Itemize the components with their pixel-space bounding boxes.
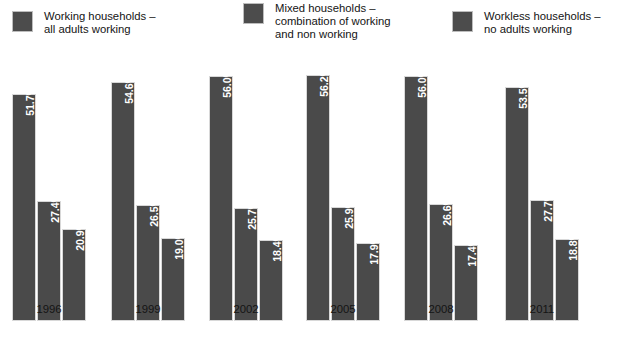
- bar-working: 51.7%: [12, 94, 36, 321]
- bar-working: 56.0%: [404, 76, 428, 321]
- bar-value-label: 56.2%: [318, 67, 330, 97]
- bar-value-label: 17.4%: [466, 237, 478, 267]
- bar-value-label: 18.8%: [567, 231, 579, 261]
- legend-item-working-households: Working households – all adults working: [12, 10, 156, 36]
- bar-value-label: 51.7%: [24, 87, 36, 117]
- bar-value-label: 56.0%: [221, 68, 233, 98]
- x-axis-tick-label: 2005: [306, 303, 380, 315]
- x-axis-tick-label: 1996: [12, 303, 86, 315]
- bar-value-label: 20.9%: [74, 222, 86, 252]
- legend-swatch-icon: [12, 11, 33, 32]
- bar-chart-plot-area: 51.7% 27.4% 20.9% 1996 54.6% 26.5% 19.0%…: [0, 58, 630, 355]
- bar-value-label: 56.0%: [416, 68, 428, 98]
- legend-swatch-icon: [452, 11, 473, 32]
- bar-working: 56.2%: [306, 75, 330, 321]
- bar-value-label: 19.0%: [173, 230, 185, 260]
- bar-value-label: 53.5%: [517, 79, 529, 109]
- bar-value-label: 18.4%: [271, 233, 283, 263]
- bar-value-label: 54.6%: [123, 74, 135, 104]
- bar-value-label: 26.6%: [441, 197, 453, 227]
- legend-item-label: Workless households – no adults working: [484, 10, 601, 36]
- legend-item-mixed-households: Mixed households – combination of workin…: [243, 2, 391, 42]
- bar-value-label: 25.9%: [343, 200, 355, 230]
- bar-working: 56.0%: [209, 76, 233, 321]
- chart-legend: Working households – all adults working …: [0, 0, 630, 58]
- x-axis-tick-label: 2008: [404, 303, 478, 315]
- legend-item-workless-households: Workless households – no adults working: [452, 10, 601, 36]
- bar-working: 53.5%: [505, 87, 529, 322]
- bar-value-label: 25.7%: [246, 201, 258, 231]
- bar-working: 54.6%: [111, 82, 135, 321]
- x-axis-tick-label: 2011: [505, 303, 579, 315]
- legend-item-label: Mixed households – combination of workin…: [275, 2, 391, 42]
- x-axis-tick-label: 2002: [209, 303, 283, 315]
- legend-item-label: Working households – all adults working: [44, 10, 156, 36]
- bar-value-label: 17.9%: [368, 235, 380, 265]
- bar-value-label: 27.7%: [542, 192, 554, 222]
- bar-value-label: 26.5%: [148, 197, 160, 227]
- legend-swatch-icon: [243, 3, 264, 24]
- bar-value-label: 27.4%: [49, 193, 61, 223]
- x-axis-tick-label: 1999: [111, 303, 185, 315]
